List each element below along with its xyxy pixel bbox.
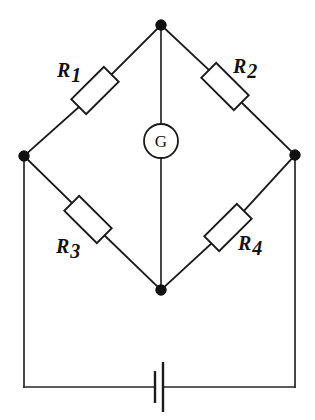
wire-right-to-r4 [243, 155, 295, 212]
resistor-r3-body [64, 196, 111, 243]
resistor-r2: R2 [201, 55, 257, 110]
wire-left-to-r3 [24, 156, 73, 204]
resistor-r3-label: R3 [55, 235, 80, 262]
resistor-r4: R4 [204, 204, 262, 259]
resistor-r1-label: R1 [56, 59, 81, 86]
node-top [156, 20, 166, 30]
resistor-r4-label: R4 [237, 232, 262, 259]
node-left [19, 151, 29, 161]
galvanometer-branch: G [144, 25, 178, 290]
wire-r2-to-right [240, 101, 295, 155]
battery-symbol [155, 362, 163, 412]
wire-top-to-r1 [110, 25, 161, 76]
wire-r4-to-bottom [161, 242, 213, 290]
supply-loop [24, 155, 295, 387]
wire-r3-to-bottom [103, 234, 161, 290]
galvanometer-label: G [155, 132, 167, 151]
resistor-r3: R3 [55, 196, 112, 262]
resistor-r2-label: R2 [232, 55, 257, 82]
circuit-diagram: G R1 R2 R3 [0, 0, 315, 420]
resistor-r1: R1 [56, 59, 119, 114]
wire-top-to-r2 [161, 25, 210, 71]
node-bottom [156, 285, 166, 295]
wire-r1-to-left [24, 106, 80, 156]
wheatstone-bridge-schematic: G R1 R2 R3 [0, 0, 315, 420]
node-right [290, 150, 300, 160]
